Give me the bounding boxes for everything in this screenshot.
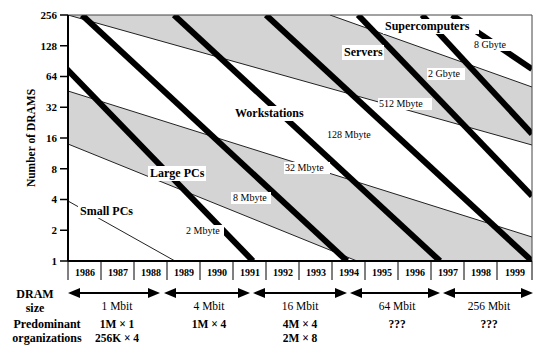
- year-1990: 1990: [207, 267, 227, 278]
- org-16mbit-a: 4M × 4: [283, 318, 318, 330]
- year-1997: 1997: [438, 267, 458, 278]
- label-128-mbyte: 128 Mbyte: [327, 129, 371, 140]
- year-1994: 1994: [339, 267, 359, 278]
- year-1993: 1993: [306, 267, 326, 278]
- region-small-pcs: Small PCs: [80, 204, 133, 218]
- region-supercomputers: Supercomputers: [385, 19, 470, 33]
- ytick-16: 16: [46, 132, 58, 144]
- label-8-gbyte: 8 Gbyte: [474, 39, 507, 50]
- label-2-mbyte: 2 Mbyte: [186, 225, 220, 236]
- dram-size-label-line2: size: [26, 301, 45, 315]
- region-servers: Servers: [344, 45, 383, 59]
- dram-size-arrows: [68, 288, 533, 298]
- dram-size-1mbit: 1 Mbit: [102, 300, 134, 312]
- year-1989: 1989: [174, 267, 194, 278]
- year-1995: 1995: [372, 267, 392, 278]
- dram-size-16mbit: 16 Mbit: [282, 300, 320, 312]
- ytick-4: 4: [52, 193, 58, 205]
- label-512-mbyte: 512 Mbyte: [379, 98, 423, 109]
- ytick-64: 64: [46, 70, 58, 82]
- year-1991: 1991: [240, 267, 260, 278]
- year-1996: 1996: [405, 267, 425, 278]
- year-1988: 1988: [141, 267, 161, 278]
- ytick-128: 128: [41, 40, 58, 52]
- ytick-32: 32: [46, 101, 58, 113]
- org-16mbit-b: 2M × 8: [283, 332, 318, 344]
- dram-size-256mbit: 256 Mbit: [468, 300, 511, 312]
- org-1mbit-a: 1M × 1: [100, 318, 135, 330]
- organizations-label-line1: Predominant: [13, 317, 80, 331]
- dram-size-label-line1: DRAM: [16, 287, 53, 301]
- ytick-256: 256: [41, 9, 58, 21]
- label-2-gbyte: 2 Gbyte: [428, 68, 461, 79]
- year-dividers: [68, 261, 532, 280]
- label-8-mbyte: 8 Mbyte: [233, 192, 267, 203]
- ytick-8: 8: [52, 163, 58, 175]
- dram-chart: 256 128 64 32 16 8 4 2 1 Number of DRAMS…: [0, 0, 541, 354]
- year-1987: 1987: [108, 267, 128, 278]
- dram-size-64mbit: 64 Mbit: [379, 300, 417, 312]
- year-1992: 1992: [273, 267, 293, 278]
- organizations-label-line2: organizations: [12, 331, 82, 345]
- region-workstations: Workstations: [235, 106, 304, 120]
- dram-size-4mbit: 4 Mbit: [194, 300, 226, 312]
- org-4mbit-a: 1M × 4: [192, 318, 227, 330]
- label-32-mbyte: 32 Mbyte: [285, 162, 324, 173]
- y-axis-label: Number of DRAMS: [25, 89, 37, 187]
- year-1999: 1999: [505, 267, 525, 278]
- ytick-2: 2: [52, 224, 58, 236]
- ytick-1: 1: [52, 255, 58, 267]
- org-256mbit: ???: [480, 318, 498, 330]
- org-1mbit-b: 256K × 4: [95, 332, 139, 344]
- y-ticks: [60, 15, 68, 261]
- region-large-pcs: Large PCs: [150, 166, 205, 180]
- org-64mbit: ???: [388, 318, 406, 330]
- year-1986: 1986: [75, 267, 95, 278]
- year-1998: 1998: [471, 267, 491, 278]
